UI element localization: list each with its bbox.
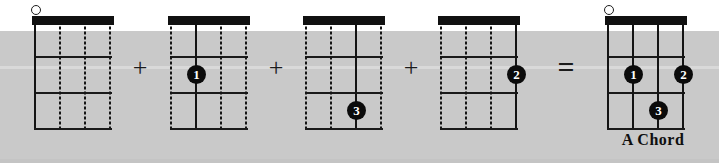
fret-line (305, 92, 383, 94)
fret-line (170, 56, 248, 58)
fretboard-grid (34, 8, 112, 128)
finger-dot-1: 1 (187, 65, 206, 84)
fret-line (440, 128, 518, 130)
operator-plus-3: + (399, 55, 423, 81)
fret-line (440, 56, 518, 58)
operator-plus-2: + (264, 55, 288, 81)
nut-bar (438, 16, 520, 25)
bottom-edge-band (0, 159, 719, 163)
chord-diagram-step-4: 2 (440, 8, 518, 128)
string-1 (440, 20, 442, 128)
finger-dot-2: 2 (507, 65, 526, 84)
fret-line (34, 92, 112, 94)
fret-line (170, 92, 248, 94)
fret-line (170, 128, 248, 130)
string-1 (607, 20, 609, 128)
string-3 (490, 20, 492, 128)
string-2 (330, 20, 332, 128)
nut-bar (32, 16, 114, 25)
fret-line (305, 56, 383, 58)
string-2 (465, 20, 467, 128)
string-4 (380, 20, 382, 128)
string-2 (59, 20, 61, 128)
finger-dot-3: 3 (347, 101, 366, 120)
chord-diagram-step-3: 3 (305, 8, 383, 128)
string-1 (305, 20, 307, 128)
chord-diagram-result: 123 (607, 8, 685, 128)
finger-dot-2: 2 (674, 65, 693, 84)
fretboard-grid: 123 (607, 8, 685, 128)
finger-dot-1: 1 (624, 65, 643, 84)
fretboard-grid: 3 (305, 8, 383, 128)
fretboard-grid: 1 (170, 8, 248, 128)
chord-diagram-step-2: 1 (170, 8, 248, 128)
fret-line (305, 128, 383, 130)
nut-bar (303, 16, 385, 25)
chord-diagram-step-1 (34, 8, 112, 128)
fret-line (34, 128, 112, 130)
fret-line (607, 128, 685, 130)
fret-line (440, 92, 518, 94)
nut-bar (168, 16, 250, 25)
nut-bar (605, 16, 687, 25)
string-3 (220, 20, 222, 128)
fretboard-grid: 2 (440, 8, 518, 128)
string-1 (34, 20, 36, 128)
fret-line (34, 56, 112, 58)
string-1 (170, 20, 172, 128)
string-4 (245, 20, 247, 128)
operator-plus-1: + (128, 55, 152, 81)
chord-name-label: A Chord (593, 131, 713, 149)
string-3 (84, 20, 86, 128)
fret-line (607, 92, 685, 94)
operator-equals: = (554, 52, 578, 82)
chord-figure: + 1 + 3 + 2 = 123 A Chord (0, 0, 719, 163)
open-string-marker-1 (604, 5, 614, 15)
string-4 (109, 20, 111, 128)
fret-line (607, 56, 685, 58)
open-string-marker-1 (31, 5, 41, 15)
finger-dot-3: 3 (649, 101, 668, 120)
